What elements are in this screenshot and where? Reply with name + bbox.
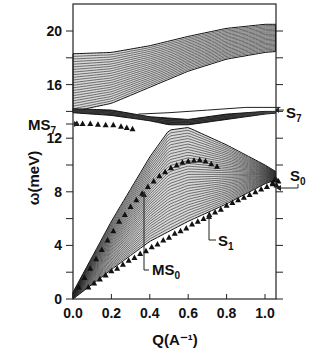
data-point-triangle — [118, 123, 124, 129]
svg-text:S1: S1 — [218, 232, 234, 252]
x-tick-label: 0.2 — [102, 305, 122, 321]
data-point-triangle — [154, 241, 160, 247]
y-tick-label: 20 — [46, 23, 62, 39]
data-point-triangle — [178, 228, 184, 234]
x-tick-label: 0.0 — [63, 305, 83, 321]
data-point-triangle — [195, 218, 201, 224]
data-point-triangle — [131, 254, 137, 259]
data-point-triangle — [201, 216, 207, 222]
data-point-triangle — [130, 126, 136, 132]
y-tick-label: 8 — [54, 184, 62, 200]
data-point-triangle — [189, 221, 195, 227]
data-point-triangle — [80, 120, 86, 126]
data-point-triangle — [149, 244, 155, 250]
data-point-triangle — [95, 121, 101, 127]
x-tick-label: 0.8 — [217, 305, 237, 321]
data-point-triangle — [103, 122, 109, 128]
data-point-triangle — [110, 122, 116, 128]
y-axis-title: ω(meV) — [25, 151, 42, 205]
y-tick-label: 0 — [54, 291, 62, 307]
annotation-ms7: MS7 — [28, 116, 79, 136]
y-tick-label: 4 — [54, 237, 62, 253]
x-tick-label: 0.6 — [178, 305, 198, 321]
data-point-triangle — [87, 120, 93, 126]
svg-text:MS0: MS0 — [152, 261, 181, 281]
data-point-triangle — [160, 237, 166, 243]
data-point-triangle — [172, 230, 178, 236]
y-tick-label: 16 — [46, 77, 62, 93]
annotation-s1: S1 — [206, 213, 234, 252]
dispersion-chart: 0.00.20.40.60.81.0048121620 ω(meV) Q(A⁻¹… — [0, 0, 318, 361]
annotation-s0: S0 — [276, 167, 306, 191]
data-point-triangle — [124, 124, 130, 129]
data-point-triangle — [166, 234, 172, 240]
x-tick-label: 1.0 — [255, 305, 275, 321]
svg-text:MS7: MS7 — [28, 116, 57, 136]
x-axis-title: Q(A⁻¹) — [152, 331, 198, 348]
x-tick-label: 0.4 — [140, 305, 160, 321]
svg-text:S7: S7 — [286, 104, 302, 124]
data-point-triangle — [137, 250, 143, 256]
data-point-triangle — [183, 225, 189, 231]
